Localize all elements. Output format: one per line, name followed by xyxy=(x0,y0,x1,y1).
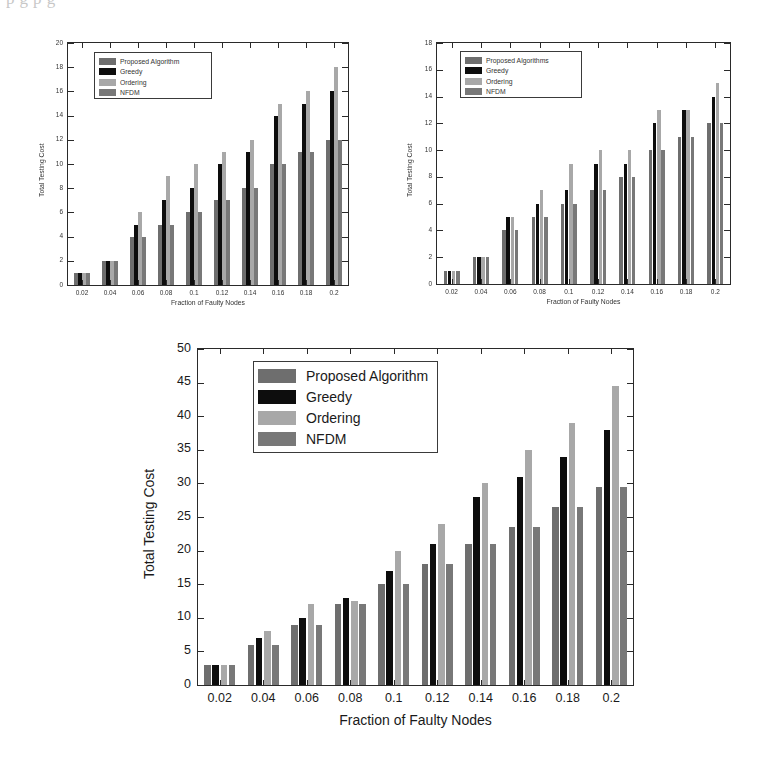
y-axis-title: Total Testing Cost xyxy=(406,143,413,197)
bar xyxy=(256,638,263,685)
y-axis-tick-label: 30 xyxy=(157,475,191,489)
bar xyxy=(620,487,627,685)
x-axis-tick xyxy=(481,680,482,685)
legend-item: Greedy xyxy=(465,66,576,77)
bar xyxy=(221,665,228,685)
bar xyxy=(166,176,169,285)
bar xyxy=(712,97,715,284)
bar xyxy=(302,104,305,286)
y-axis-tick-label: 10 xyxy=(410,146,432,153)
bar xyxy=(691,137,694,284)
legend-item: Ordering xyxy=(465,76,576,87)
y-axis-tick-label: 2 xyxy=(41,256,63,263)
bar xyxy=(270,164,273,285)
bar xyxy=(569,164,572,285)
x-axis-tick xyxy=(627,279,628,284)
bar xyxy=(649,150,652,284)
bar xyxy=(682,110,685,284)
y-axis-tick-label: 0 xyxy=(410,280,432,287)
bar xyxy=(86,273,89,285)
legend-label: Proposed Algorithm xyxy=(306,368,428,384)
bar xyxy=(198,212,201,285)
bar xyxy=(511,217,514,284)
x-axis-tick xyxy=(138,280,139,285)
figure-top-left: 024681012141618200.020.040.060.080.10.12… xyxy=(34,36,364,326)
bar xyxy=(246,152,249,285)
x-axis-tick xyxy=(278,280,279,285)
x-axis-tick-top xyxy=(452,43,453,48)
y-axis-tick-label: 18 xyxy=(41,63,63,70)
bar xyxy=(74,273,77,285)
bar xyxy=(619,177,622,284)
y-axis-tick xyxy=(437,284,443,285)
x-axis-tick xyxy=(437,680,438,685)
x-axis-tick xyxy=(82,280,83,285)
bar xyxy=(272,645,279,685)
chart-legend: Proposed AlgorithmsGreedyOrderingNFDM xyxy=(460,51,582,98)
y-axis-tick-label: 16 xyxy=(410,65,432,72)
y-axis-tick-label: 25 xyxy=(157,509,191,523)
bar xyxy=(162,200,165,285)
x-axis-title: Fraction of Faulty Nodes xyxy=(197,712,634,728)
bar xyxy=(604,430,611,685)
bar xyxy=(194,164,197,285)
bar xyxy=(291,625,298,685)
bar xyxy=(264,631,271,685)
y-axis-tick-right xyxy=(724,284,730,285)
y-axis-tick-label: 12 xyxy=(41,135,63,142)
y-axis-tick-label: 4 xyxy=(41,232,63,239)
legend-item: Ordering xyxy=(258,407,432,428)
legend-swatch-nfdm xyxy=(99,89,116,96)
legend-label: Proposed Algorithms xyxy=(486,57,549,64)
legend-swatch-proposed xyxy=(258,369,296,383)
x-axis-tick xyxy=(524,680,525,685)
legend-item: Proposed Algorithm xyxy=(258,365,432,386)
legend-swatch-ordering xyxy=(99,79,116,86)
y-axis-tick-label: 2 xyxy=(410,253,432,260)
x-axis-tick xyxy=(263,680,264,685)
legend-swatch-nfdm xyxy=(465,88,482,95)
bar xyxy=(218,164,221,285)
x-axis-tick xyxy=(510,279,511,284)
legend-swatch-greedy xyxy=(465,67,482,74)
legend-swatch-nfdm xyxy=(258,432,296,446)
bar xyxy=(444,271,447,284)
x-axis-tick-top xyxy=(394,349,395,354)
bar xyxy=(632,177,635,284)
bar xyxy=(170,225,173,286)
legend-label: Greedy xyxy=(306,389,352,405)
bar xyxy=(561,204,564,284)
x-axis-tick xyxy=(481,279,482,284)
bar xyxy=(142,237,145,285)
bar xyxy=(282,164,285,285)
bar xyxy=(378,584,385,685)
x-axis-tick xyxy=(307,680,308,685)
legend-label: NFDM xyxy=(306,431,346,447)
y-axis-tick-right xyxy=(342,285,348,286)
bar xyxy=(533,527,540,685)
y-axis-tick-label: 6 xyxy=(41,208,63,215)
x-axis-tick-top xyxy=(481,43,482,48)
bar xyxy=(326,140,329,285)
y-axis-tick-label: 15 xyxy=(157,576,191,590)
y-axis-tick-label: 10 xyxy=(157,609,191,623)
bar xyxy=(438,524,445,685)
bar xyxy=(138,212,141,285)
bar xyxy=(190,188,193,285)
y-axis-tick-label: 20 xyxy=(41,39,63,46)
bar xyxy=(678,137,681,284)
x-axis-tick-top xyxy=(194,43,195,48)
x-axis-tick-top xyxy=(250,43,251,48)
legend-swatch-ordering xyxy=(465,78,482,85)
bar xyxy=(158,225,161,286)
legend-swatch-proposed xyxy=(465,57,482,64)
bar xyxy=(456,271,459,284)
y-axis-tick-label: 14 xyxy=(41,111,63,118)
legend-swatch-greedy xyxy=(258,390,296,404)
y-axis-title: Total Testing Cost xyxy=(38,143,45,197)
y-axis-tick-label: 0 xyxy=(157,677,191,691)
y-axis-tick-label: 18 xyxy=(410,39,432,46)
bar xyxy=(335,604,342,685)
y-axis-tick-label: 45 xyxy=(157,374,191,388)
legend-label: Ordering xyxy=(306,410,360,426)
